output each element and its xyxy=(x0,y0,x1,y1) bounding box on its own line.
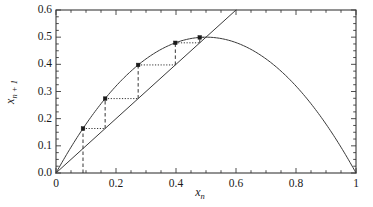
y-tick-label: 0.6 xyxy=(20,4,52,16)
y-tick-label: 0.3 xyxy=(20,86,52,98)
y-tick-label: 0.4 xyxy=(20,59,52,71)
x-tick-label: 1 xyxy=(353,178,359,190)
x-axis-title-subscript: n xyxy=(201,191,205,201)
cobweb-marker xyxy=(174,41,178,45)
y-axis-title-subscript: n + 1 xyxy=(9,80,19,99)
x-tick-label: 0.4 xyxy=(169,178,183,190)
series-logistic-map-parabola xyxy=(56,37,356,173)
cobweb-markers xyxy=(81,36,201,131)
cobweb-marker xyxy=(81,127,85,131)
cobweb-marker xyxy=(103,97,107,101)
cobweb-plot-svg xyxy=(0,0,373,207)
axis-ticks xyxy=(56,10,356,173)
plot-frame xyxy=(56,10,356,173)
x-tick-label: 0.8 xyxy=(289,178,303,190)
x-axis-title: xn xyxy=(195,186,205,198)
y-tick-label: 0.0 xyxy=(20,167,52,179)
y-tick-label: 0.5 xyxy=(20,31,52,43)
y-axis-title-base: x xyxy=(3,99,17,104)
x-tick-label: 0.2 xyxy=(109,178,123,190)
cobweb-lines xyxy=(83,37,206,173)
x-tick-label: 0 xyxy=(53,178,59,190)
chart-figure: 0.00.10.20.30.40.50.6 00.20.40.60.81 xn … xyxy=(0,0,373,207)
y-tick-label: 0.1 xyxy=(20,140,52,152)
y-tick-label: 0.2 xyxy=(20,113,52,125)
series-identity-diagonal xyxy=(56,10,236,173)
cobweb-marker xyxy=(136,63,140,67)
x-tick-label: 0.6 xyxy=(229,178,243,190)
cobweb-marker xyxy=(198,36,202,40)
data-curves xyxy=(56,10,356,173)
y-axis-title: xn + 1 xyxy=(4,80,16,104)
plot-frame-rect xyxy=(56,10,356,173)
